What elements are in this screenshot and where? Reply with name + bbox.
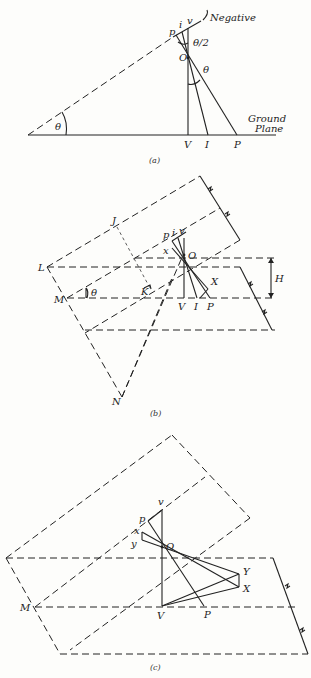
ray-x-X xyxy=(142,532,239,587)
horizontal-plane-right-edge-c xyxy=(273,558,308,654)
theta-mark-b xyxy=(86,288,88,298)
principal-ray-c xyxy=(148,521,204,606)
label-I: I xyxy=(204,139,210,150)
negative-line-c xyxy=(148,510,162,521)
label-I-b: I xyxy=(193,301,199,312)
label-M-c: M xyxy=(19,602,31,613)
label-theta-b: θ xyxy=(91,287,97,298)
lens-point-o-c xyxy=(161,546,164,549)
label-v: v xyxy=(187,15,193,26)
ray-y-Y xyxy=(142,540,239,574)
theta-base-arc xyxy=(62,112,67,135)
panel-b: J L M N K θ p i v x O X H V I P (b) xyxy=(37,176,284,418)
label-V: V xyxy=(184,139,193,150)
label-J: J xyxy=(110,215,117,226)
label-H: H xyxy=(274,273,284,284)
panel-a: Negative p i v θ/2 O θ θ Ground Plane V … xyxy=(28,10,286,165)
tilted-photo-geometry-figure: Negative p i v θ/2 O θ θ Ground Plane V … xyxy=(0,0,311,678)
break-mark-2 xyxy=(225,212,230,216)
label-o-c: O xyxy=(166,541,174,552)
label-plane: Plane xyxy=(254,123,283,134)
label-p-c: p xyxy=(139,513,146,524)
caption-a: (a) xyxy=(149,156,160,165)
label-theta-half: θ/2 xyxy=(193,37,209,48)
theta-half-arc xyxy=(178,42,188,44)
tilted-plane-bottom-edge-c xyxy=(70,518,250,650)
horizontal-plane-left-edge-c xyxy=(6,558,60,654)
label-Y-c: Y xyxy=(243,566,251,577)
break-mark-6 xyxy=(300,628,305,632)
label-p-b: p xyxy=(163,229,170,240)
label-N: N xyxy=(111,396,122,407)
negative-leader xyxy=(203,10,208,20)
label-v-b: v xyxy=(179,225,185,236)
tilted-plane-right-edge-c xyxy=(172,435,250,518)
label-theta-base: θ xyxy=(55,121,61,132)
label-X-b: X xyxy=(210,276,219,287)
label-p: p xyxy=(169,26,176,37)
principal-ray xyxy=(176,35,237,135)
label-i-b: i xyxy=(172,227,175,238)
label-P-b: P xyxy=(206,301,214,312)
break-mark-5 xyxy=(285,584,290,588)
label-x-b: x xyxy=(163,245,169,256)
label-x-c: x xyxy=(134,525,140,536)
caption-b: (b) xyxy=(150,409,161,418)
label-o: O xyxy=(179,52,187,63)
caption-c: (c) xyxy=(150,663,161,672)
isocenter-ray-b xyxy=(178,238,197,298)
tilted-plane-mid-line xyxy=(67,208,220,298)
line-J-K xyxy=(117,227,150,288)
label-M: M xyxy=(53,294,65,305)
label-P: P xyxy=(233,139,241,150)
lens-point-o-b xyxy=(183,254,186,257)
panel-c: v p x y O Y X M V P (c) xyxy=(6,435,308,672)
label-K: K xyxy=(140,286,149,297)
tilted-plane-top-edge-c xyxy=(6,435,172,558)
line-N-O xyxy=(122,255,183,397)
label-negative: Negative xyxy=(209,12,256,23)
label-X-c: X xyxy=(242,583,251,594)
line-L-N xyxy=(47,267,122,397)
label-i: i xyxy=(179,19,182,30)
label-v-c: v xyxy=(158,496,164,507)
negative-extension-dashed xyxy=(28,37,173,135)
label-o-b: O xyxy=(188,250,196,261)
label-V-b: V xyxy=(178,301,187,312)
label-theta: θ xyxy=(203,64,209,75)
label-P-c: P xyxy=(203,609,211,620)
label-y-c: y xyxy=(130,538,137,549)
tilted-plane-mid-line-c xyxy=(35,477,205,607)
label-L: L xyxy=(37,262,45,273)
label-V-c: V xyxy=(157,610,166,621)
